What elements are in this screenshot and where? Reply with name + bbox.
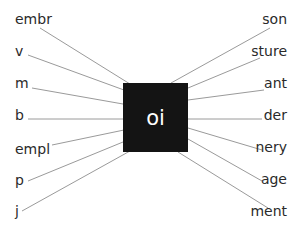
right-label-der: der xyxy=(264,107,287,123)
left-label-embr: embr xyxy=(15,11,52,27)
right-label-ment: ment xyxy=(250,203,287,219)
connector-line-nery xyxy=(188,128,262,150)
left-label-v: v xyxy=(15,43,23,59)
connector-line-empl xyxy=(52,130,124,145)
left-label-empl: empl xyxy=(15,141,50,157)
right-label-son: son xyxy=(262,11,287,27)
connector-line-j xyxy=(22,151,130,211)
left-label-p: p xyxy=(15,172,24,188)
center-node: oi xyxy=(123,83,188,152)
connector-line-m xyxy=(32,88,123,104)
connector-line-age xyxy=(188,139,262,181)
right-label-ant: ant xyxy=(264,75,287,91)
connector-line-sture xyxy=(188,58,260,88)
connector-line-v xyxy=(28,55,124,90)
connector-line-ant xyxy=(188,90,264,100)
left-label-b: b xyxy=(15,107,24,123)
left-label-j: j xyxy=(15,203,19,219)
right-label-nery: nery xyxy=(255,139,287,155)
connector-line-ment xyxy=(178,152,268,208)
left-label-m: m xyxy=(15,75,29,91)
center-node-label: oi xyxy=(146,106,165,130)
right-label-sture: sture xyxy=(251,43,287,59)
right-label-age: age xyxy=(261,171,287,187)
